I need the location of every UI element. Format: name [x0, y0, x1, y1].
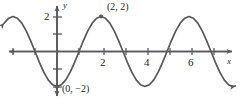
minimum-point-marker: [55, 84, 59, 88]
chart-canvas: [0, 0, 241, 101]
y-axis-label: y: [63, 1, 67, 10]
x-tick-label-4: 4: [144, 57, 150, 68]
x-axis-label: x: [227, 57, 231, 66]
x-tick-label-2: 2: [100, 57, 106, 68]
maximum-point-label: (2, 2): [107, 2, 129, 12]
y-tick-label-2: 2: [44, 11, 50, 22]
chart-figure: 2 y 2 4 6 x (2, 2) (0, −2): [0, 0, 241, 101]
minimum-point-label: (0, −2): [62, 84, 89, 94]
maximum-point-marker: [99, 14, 103, 18]
x-tick-label-6: 6: [188, 57, 194, 68]
